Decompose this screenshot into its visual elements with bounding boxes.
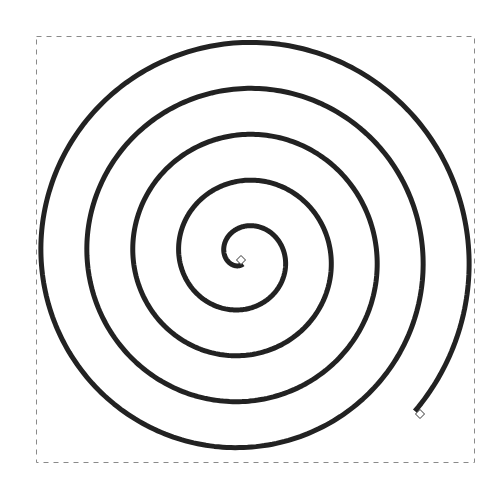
drawing-canvas[interactable]: [0, 0, 498, 488]
inner-start-handle[interactable]: [237, 256, 246, 265]
spiral-path[interactable]: [41, 42, 469, 447]
canvas-svg: [0, 0, 498, 488]
